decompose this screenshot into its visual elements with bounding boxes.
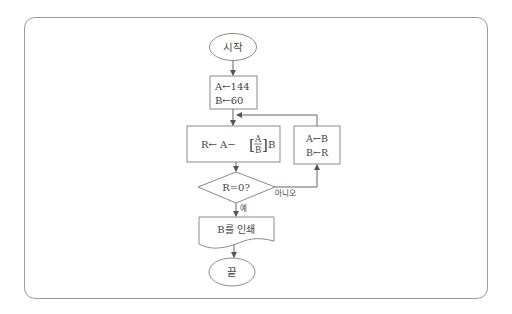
decision-label: R=0? [222, 182, 250, 193]
edge-decision-no [275, 165, 317, 187]
flowchart-canvas: 시작 A←144 B←60 R← A− [ A B ] B A←B B←R R=… [0, 0, 512, 314]
no-label: 아니오 [275, 188, 296, 198]
init-line-1: A←144 [214, 81, 250, 92]
start-label: 시작 [223, 41, 243, 53]
edge-swap-loop [237, 115, 317, 126]
swap-line-1: A←B [305, 133, 328, 144]
compute-suffix: B [268, 139, 275, 150]
compute-frac-den: B [255, 145, 261, 155]
compute-frac-num: A [254, 134, 262, 144]
bracket-right: ] [262, 136, 268, 154]
init-line-2: B←60 [215, 95, 243, 106]
end-label: 끝 [227, 266, 237, 278]
swap-node [294, 126, 340, 164]
swap-line-2: B←R [306, 147, 329, 158]
compute-prefix: R← A− [201, 139, 236, 150]
yes-label: 예 [240, 203, 247, 213]
output-label: B를 인쇄 [217, 224, 255, 235]
